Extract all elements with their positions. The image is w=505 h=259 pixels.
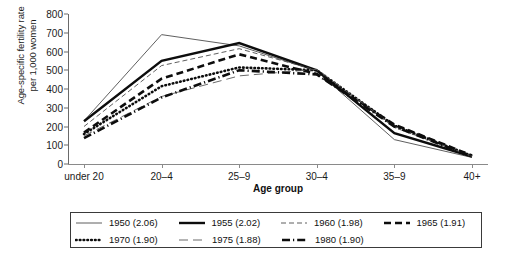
x-tick-label: 35–9: [383, 171, 405, 182]
x-axis-line: [68, 164, 488, 165]
legend-item[interactable]: 1980 (1.90): [277, 234, 380, 245]
legend-row: 1950 (2.06)1955 (2.02)1960 (1.98)1965 (1…: [71, 214, 481, 231]
legend-item[interactable]: 1965 (1.91): [379, 217, 482, 228]
legend-item[interactable]: 1955 (2.02): [174, 217, 277, 228]
y-tick-label: 0: [57, 159, 63, 170]
y-tick-label: 600: [46, 46, 63, 57]
legend-line-swatch: [383, 218, 411, 228]
legend-line-swatch: [178, 218, 206, 228]
series-line: [84, 70, 472, 156]
x-tick-mark: [472, 164, 473, 168]
series-line: [84, 69, 472, 156]
plot-area: 0100200300400500600700800 under 2020–425…: [68, 14, 488, 164]
legend-line-swatch: [75, 218, 103, 228]
legend-item[interactable]: 1975 (1.88): [174, 234, 277, 245]
x-tick-label: 25–9: [228, 171, 250, 182]
legend-label: 1975 (1.88): [212, 234, 261, 245]
series-lines: [68, 14, 488, 164]
legend-line-swatch: [75, 235, 103, 245]
legend-label: 1955 (2.02): [212, 217, 261, 228]
x-tick-mark: [394, 164, 395, 168]
x-tick-label: 40+: [464, 171, 481, 182]
fertility-rate-line-chart: Age-specific fertility rate per 1,000 wo…: [0, 0, 505, 259]
y-tick-label: 500: [46, 65, 63, 76]
y-tick-label: 800: [46, 9, 63, 20]
legend-item[interactable]: 1950 (2.06): [71, 217, 174, 228]
x-tick-label: 30–4: [306, 171, 328, 182]
legend-label: 1970 (1.90): [109, 234, 158, 245]
legend-row: 1970 (1.90)1975 (1.88)1980 (1.90): [71, 231, 481, 248]
legend-label: 1950 (2.06): [109, 217, 158, 228]
legend-line-swatch: [178, 235, 206, 245]
legend-line-swatch: [280, 218, 308, 228]
legend-item[interactable]: 1960 (1.98): [276, 217, 379, 228]
y-tick-label: 300: [46, 102, 63, 113]
x-tick-label: under 20: [64, 171, 103, 182]
series-line: [84, 43, 472, 156]
x-tick-mark: [162, 164, 163, 168]
y-tick-label: 400: [46, 84, 63, 95]
y-axis-label: Age-specific fertility rate per 1,000 wo…: [15, 0, 38, 126]
y-tick-label: 200: [46, 121, 63, 132]
y-tick-label: 100: [46, 140, 63, 151]
legend-label: 1965 (1.91): [417, 217, 466, 228]
x-tick-mark: [239, 164, 240, 168]
legend-label: 1980 (1.90): [315, 234, 364, 245]
legend-label: 1960 (1.98): [314, 217, 363, 228]
legend-line-swatch: [281, 235, 309, 245]
legend: 1950 (2.06)1955 (2.02)1960 (1.98)1965 (1…: [70, 212, 482, 248]
x-axis-label: Age group: [68, 183, 488, 194]
x-tick-mark: [317, 164, 318, 168]
x-tick-mark: [84, 164, 85, 168]
y-tick-label: 700: [46, 27, 63, 38]
legend-item[interactable]: 1970 (1.90): [71, 234, 174, 245]
x-tick-label: 20–4: [150, 171, 172, 182]
